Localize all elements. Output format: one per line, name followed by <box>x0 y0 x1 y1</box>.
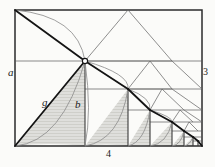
bold-diagonal-step-3 <box>150 110 172 122</box>
shaded-region-2 <box>128 110 150 146</box>
bold-diagonal-step-1 <box>85 61 128 89</box>
shaded-region-3 <box>150 122 172 146</box>
label-b: b <box>75 99 81 110</box>
construction-line-up-1 <box>128 61 150 89</box>
label-4: 4 <box>106 149 111 159</box>
shaded-region-1 <box>85 89 128 146</box>
bold-diagonal-step-6 <box>193 137 198 141</box>
construction-line-up-2 <box>150 89 162 110</box>
construction-lines <box>85 10 202 131</box>
vertex-node <box>82 58 87 63</box>
construction-line-down-4 <box>189 122 198 131</box>
construction-line-up-0 <box>85 10 128 61</box>
construction-line-down-0 <box>128 10 172 61</box>
construction-line-up-3 <box>172 110 180 122</box>
construction-line-tail-1 <box>172 89 202 110</box>
label-3: 3 <box>203 67 208 77</box>
construction-line-up-4 <box>184 122 189 131</box>
construction-line-down-2 <box>162 89 184 110</box>
geometric-figure: a 3 4 g b <box>0 0 215 167</box>
figure-canvas <box>0 0 215 167</box>
label-g: g <box>42 97 48 108</box>
label-a: a <box>8 67 14 78</box>
bold-diagonal-step-5 <box>184 131 193 137</box>
shaded-region-5 <box>184 137 193 146</box>
construction-line-tail-0 <box>172 61 202 89</box>
construction-line-down-1 <box>150 61 172 89</box>
bold-diagonal-step-4 <box>172 122 184 131</box>
